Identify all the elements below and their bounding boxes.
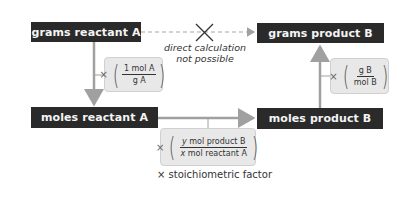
times-icon: × — [329, 71, 337, 82]
right-paren: ) — [160, 62, 166, 88]
right-paren: ) — [382, 63, 388, 89]
note-line-1: direct calculation — [155, 42, 255, 53]
denominator: x mol reactant A — [179, 148, 249, 158]
times-icon: × — [156, 142, 164, 153]
denominator: g A — [131, 75, 148, 85]
stoichiometric-caption: × stoichiometric factor — [157, 169, 272, 180]
node-moles-reactant-a: moles reactant A — [31, 107, 158, 128]
fraction: 1 mol A g A — [122, 64, 157, 85]
node-grams-reactant-a: grams reactant A — [31, 22, 141, 42]
direct-calculation-note: direct calculation not possible — [155, 42, 255, 64]
left-paren: ( — [343, 63, 349, 89]
fraction: y mol product B x mol reactant A — [179, 137, 249, 158]
node-moles-product-b: moles product B — [257, 108, 383, 129]
numerator: g B — [357, 66, 374, 77]
node-grams-product-b: grams product B — [257, 23, 384, 43]
note-line-2: not possible — [155, 53, 255, 64]
left-paren: ( — [169, 134, 175, 160]
denominator: mol B — [352, 77, 379, 87]
num-text: mol product B — [187, 137, 246, 146]
factor-molar-mass-a: × ( 1 mol A g A ) — [104, 57, 163, 92]
numerator: 1 mol A — [122, 64, 157, 75]
times-icon: × — [99, 69, 107, 80]
numerator: y mol product B — [180, 137, 248, 148]
fraction: g B mol B — [352, 66, 379, 87]
left-paren: ( — [113, 62, 119, 88]
den-text: mol reactant A — [185, 149, 247, 158]
right-paren: ) — [252, 134, 258, 160]
factor-stoichiometric: × ( y mol product B x mol reactant A ) — [160, 128, 256, 166]
factor-molar-mass-b: × ( g B mol B ) — [330, 58, 389, 94]
